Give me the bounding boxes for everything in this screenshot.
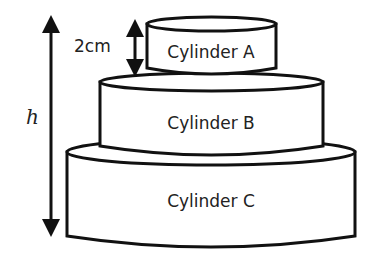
cylinder-c-label: Cylinder C <box>167 191 255 211</box>
height-label: h <box>26 105 39 129</box>
stacked-cylinders-diagram: 2cm h Cylinder A Cylinder B Cylinder C <box>0 0 379 257</box>
cylinder-b-label: Cylinder B <box>167 113 254 133</box>
cylinder-a-label: Cylinder A <box>167 42 255 62</box>
gap-label: 2cm <box>74 36 111 56</box>
